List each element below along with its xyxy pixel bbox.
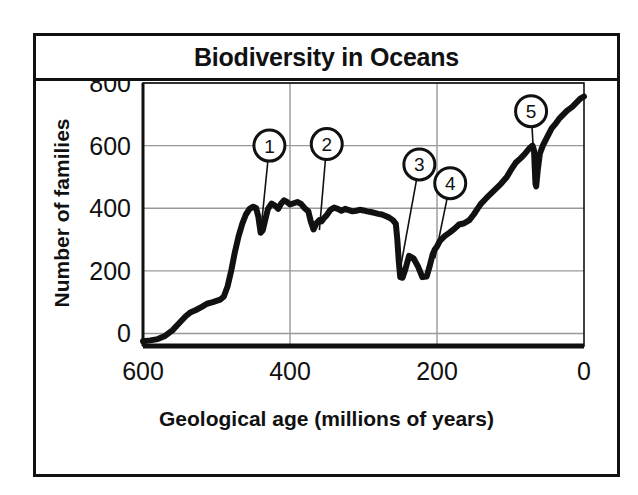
y-axis-tick-labels: 0200400600800: [89, 81, 131, 347]
x-tick-label: 600: [122, 357, 164, 385]
diversity-curve: [143, 96, 584, 341]
x-axis-title: Geological age (millions of years): [36, 407, 617, 431]
plot-area-border: [143, 83, 584, 346]
callout-number: 4: [445, 173, 456, 194]
x-tick-label: 200: [416, 357, 458, 385]
y-tick-label: 800: [89, 81, 131, 97]
plot-body: Number of families 0200400600800 6004002…: [36, 81, 617, 477]
callout-number: 2: [321, 134, 332, 155]
y-tick-label: 600: [89, 132, 131, 160]
chart-figure: Biodiversity in Oceans Number of familie…: [33, 33, 620, 477]
line-chart-svg: 0200400600800 6004002000 12345: [36, 81, 617, 411]
x-tick-label: 0: [577, 357, 591, 385]
chart-gridlines: [143, 83, 584, 346]
y-tick-label: 400: [89, 194, 131, 222]
chart-title-bar: Biodiversity in Oceans: [36, 36, 617, 81]
callout-number: 1: [264, 136, 275, 157]
x-tick-label: 400: [269, 357, 311, 385]
y-tick-label: 0: [117, 319, 131, 347]
y-tick-label: 200: [89, 257, 131, 285]
callout-number: 3: [414, 154, 425, 175]
x-axis-tick-labels: 6004002000: [122, 357, 591, 385]
page-title: Biodiversity in Oceans: [194, 43, 459, 72]
callout-number: 5: [526, 101, 537, 122]
